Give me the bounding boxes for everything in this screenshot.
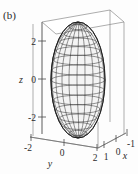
x-axis-line — [98, 133, 126, 148]
z-axis-label: z — [18, 74, 23, 85]
z-tick-label: 2 — [31, 37, 36, 47]
y-tick-label: -2 — [24, 143, 32, 153]
z-tick-label: 0 — [31, 75, 36, 85]
z-axis: 2 0 -2 z — [18, 22, 46, 134]
x-axis-label: x — [122, 150, 128, 161]
z-tick-label: -2 — [28, 113, 36, 123]
ellipsoid-surface — [51, 22, 105, 138]
x-axis: 1 0 -1 x — [98, 129, 135, 162]
y-axis-label: y — [47, 158, 53, 169]
ellipsoid-3d-plot: 2 0 -2 z -2 0 2 y — [0, 0, 138, 174]
x-tick-label: 0 — [116, 147, 121, 157]
figure-panel: (b) — [0, 0, 138, 174]
y-tick-label: 0 — [60, 148, 65, 158]
y-tick-label: 2 — [93, 153, 98, 163]
x-tick-label: 1 — [104, 152, 109, 162]
y-axis: -2 0 2 y — [24, 134, 98, 169]
x-tick-label: -1 — [127, 139, 135, 149]
